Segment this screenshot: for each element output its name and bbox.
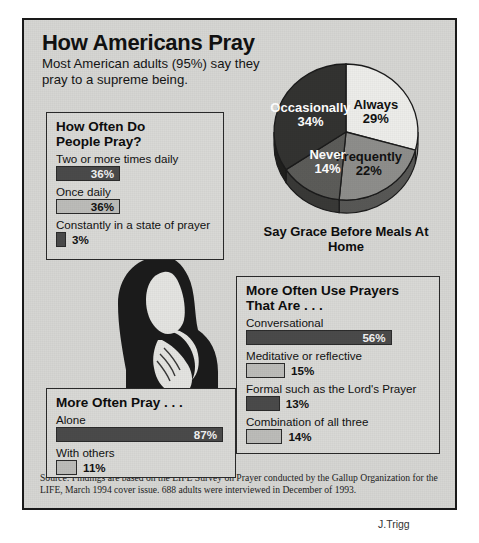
panel-more-often-pray: More Often Pray . . . Alone87%With other… bbox=[46, 388, 236, 478]
bar-row: 87% bbox=[56, 427, 235, 442]
bar-value: 36% bbox=[91, 167, 119, 180]
pie-chart-svg: Always29%Frequently22%Never14%Occasional… bbox=[260, 56, 432, 221]
bar-list: Two or more times daily36%Once daily36%C… bbox=[47, 152, 223, 247]
bar-value: 13% bbox=[280, 397, 309, 410]
panel-title: More Often Use Prayers That Are . . . bbox=[246, 283, 439, 313]
bar-value: 11% bbox=[77, 461, 106, 474]
praying-woman-illustration bbox=[102, 252, 242, 402]
bar-label: Formal such as the Lord's Prayer bbox=[246, 382, 439, 395]
bar-label: Once daily bbox=[56, 185, 223, 198]
pie-chart-caption: Say Grace Before Meals At Home bbox=[260, 224, 432, 254]
bar-row: 11% bbox=[56, 460, 235, 475]
bar-label: Meditative or reflective bbox=[246, 349, 439, 362]
bar-label: Constantly in a state of prayer bbox=[56, 218, 223, 231]
bar-value: 56% bbox=[362, 331, 390, 344]
pie-slice-value-never: 14% bbox=[314, 161, 340, 176]
bar: 36% bbox=[56, 199, 120, 214]
bar-row: 14% bbox=[246, 429, 439, 444]
pie-chart: Always29%Frequently22%Never14%Occasional… bbox=[260, 56, 432, 266]
bar-row: 56% bbox=[246, 330, 439, 345]
bar-value: 87% bbox=[194, 428, 222, 441]
bar-label: Two or more times daily bbox=[56, 152, 223, 165]
bar bbox=[246, 396, 280, 411]
page-subtitle: Most American adults (95%) say they pray… bbox=[42, 56, 272, 87]
bar-value: 36% bbox=[91, 200, 119, 213]
bar-list: Alone87%With others11% bbox=[47, 413, 235, 475]
artist-credit: J.Trigg bbox=[378, 518, 410, 530]
pie-slice-label-frequently: Frequently bbox=[336, 149, 403, 164]
bar bbox=[56, 232, 66, 247]
bar-value: 3% bbox=[66, 233, 89, 246]
panel-prayers-that-are: More Often Use Prayers That Are . . . Co… bbox=[236, 276, 440, 454]
pie-slice-value-always: 29% bbox=[363, 111, 389, 126]
bar-row: 3% bbox=[56, 232, 223, 247]
bar: 56% bbox=[246, 330, 392, 345]
bar-row: 15% bbox=[246, 363, 439, 378]
page-title: How Americans Pray bbox=[42, 30, 255, 56]
bar bbox=[246, 363, 285, 378]
bar: 87% bbox=[56, 427, 223, 442]
bar-row: 36% bbox=[56, 199, 223, 214]
infographic-panel: How Americans Pray Most American adults … bbox=[22, 18, 457, 510]
bar-label: Alone bbox=[56, 413, 235, 426]
pie-slice-value-occasionally: 34% bbox=[297, 114, 323, 129]
pie-slice-label-occasionally: Occasionally bbox=[270, 100, 351, 115]
bar-value: 15% bbox=[285, 364, 314, 377]
panel-how-often-pray: How Often Do People Pray? Two or more ti… bbox=[46, 112, 224, 260]
bar-value: 14% bbox=[282, 430, 311, 443]
pie-slice-label-always: Always bbox=[353, 97, 398, 112]
panel-title: How Often Do People Pray? bbox=[56, 119, 223, 149]
bar-list: Conversational56%Meditative or reflectiv… bbox=[237, 316, 439, 444]
bar-row: 13% bbox=[246, 396, 439, 411]
pie-slice-value-frequently: 22% bbox=[356, 163, 382, 178]
bar bbox=[246, 429, 282, 444]
bar-row: 36% bbox=[56, 166, 223, 181]
bar bbox=[56, 460, 77, 475]
panel-title: More Often Pray . . . bbox=[56, 395, 235, 410]
bar-label: With others bbox=[56, 446, 235, 459]
bar-label: Conversational bbox=[246, 316, 439, 329]
pie-slice-label-never: Never bbox=[309, 147, 345, 162]
bar-label: Combination of all three bbox=[246, 415, 439, 428]
bar: 36% bbox=[56, 166, 120, 181]
